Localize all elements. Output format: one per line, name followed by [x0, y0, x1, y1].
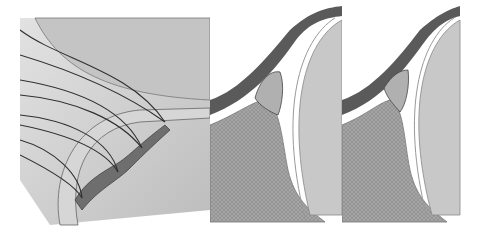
panel-arthroscopic-view	[20, 0, 210, 230]
arthroscopic-illustration	[20, 0, 210, 230]
cross-section-detached-illustration	[210, 0, 342, 230]
panel-cross-section-detached	[210, 0, 342, 230]
cross-section-repaired-illustration	[342, 0, 478, 230]
panel-cross-section-repaired	[342, 0, 478, 230]
